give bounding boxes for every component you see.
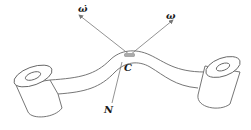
- label-contact-point: C: [124, 63, 132, 73]
- vectors: [79, 15, 173, 103]
- omega-arrow: [130, 20, 173, 55]
- label-normal-force: N: [104, 105, 113, 115]
- right-cylinder: [198, 52, 243, 108]
- diagram-canvas: ω̇ ω C N: [0, 0, 251, 130]
- contact-point-mark: [124, 53, 135, 57]
- omega-dot-arrow: [79, 15, 130, 55]
- left-cylinder: [11, 61, 62, 117]
- label-omega: ω: [166, 11, 176, 21]
- normal-force-line: [112, 62, 122, 103]
- label-omega-dot: ω̇: [78, 4, 88, 14]
